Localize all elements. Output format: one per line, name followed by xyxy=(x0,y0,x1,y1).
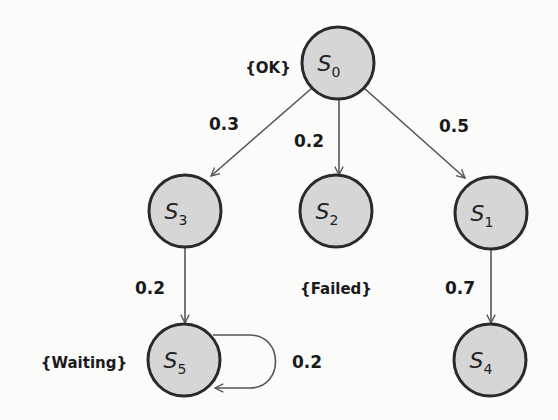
prob-label-s0-s2: 0.2 xyxy=(294,131,324,151)
prob-label-s3-s5: 0.2 xyxy=(135,278,165,298)
node-s4: S4 xyxy=(454,324,526,396)
prob-label-s5-self: 0.2 xyxy=(292,352,322,372)
prob-label-s1-s4: 0.7 xyxy=(445,278,475,298)
node-s1: S1 xyxy=(455,177,527,249)
prob-label-s0-s3: 0.3 xyxy=(209,114,239,134)
node-s5: S5 xyxy=(148,324,220,396)
state-label-ok: {OK} xyxy=(245,59,291,77)
node-s3: S3 xyxy=(149,175,221,247)
state-label-failed: {Failed} xyxy=(300,280,372,298)
markov-chain-diagram: S0 S1 S2 S3 S4 S5 {OK} {Failed} {Waiting… xyxy=(0,0,558,420)
prob-label-s0-s1: 0.5 xyxy=(439,116,469,136)
node-s2: S2 xyxy=(300,175,372,247)
edge-s5-self-loop xyxy=(213,335,276,388)
node-s0: S0 xyxy=(302,27,374,99)
state-label-waiting: {Waiting} xyxy=(41,354,127,372)
